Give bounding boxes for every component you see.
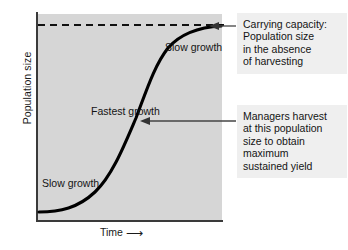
x-axis-label: Time⟶ <box>100 226 143 238</box>
callout-line: sustained yield <box>243 160 341 172</box>
annotation-line: Fastest <box>91 105 125 117</box>
y-axis-line <box>36 12 38 222</box>
callout-carrying-capacity: Carrying capacity: Population size in th… <box>237 13 347 74</box>
annotation-line: growth <box>191 41 223 53</box>
callout-line: in the absence <box>243 43 341 55</box>
x-axis-label-text: Time <box>100 226 123 238</box>
callout-line: at this population <box>243 122 341 134</box>
population-growth-figure: Population size Time⟶ Slow growth Fastes… <box>0 0 348 250</box>
x-axis-arrow-icon: ⟶ <box>126 228 143 238</box>
annotation-slow-growth-upper: Slow growth <box>165 41 222 53</box>
callout-line: maximum <box>243 147 341 159</box>
annotation-line: Slow <box>165 41 188 53</box>
annotation-line: growth <box>128 105 160 117</box>
callout-line: Population size <box>243 30 341 42</box>
annotation-fastest-growth: Fastest growth <box>91 105 160 117</box>
callout-managers-harvest: Managers harvest at this population size… <box>237 105 347 178</box>
callout-line: Carrying capacity: <box>243 18 341 30</box>
callout-line: size to obtain <box>243 135 341 147</box>
callout-line: of harvesting <box>243 55 341 67</box>
annotation-line: Slow <box>42 177 65 189</box>
annotation-line: growth <box>68 177 100 189</box>
callout-line: Managers harvest <box>243 110 341 122</box>
annotation-slow-growth-lower: Slow growth <box>42 177 99 189</box>
x-axis-line <box>36 220 223 222</box>
y-axis-label: Population size <box>21 23 33 153</box>
